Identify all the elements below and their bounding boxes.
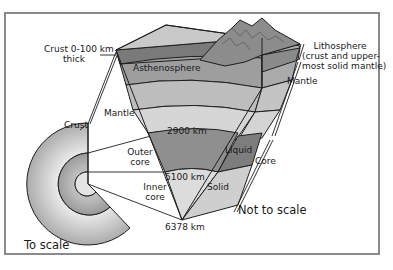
solid-label: Solid [207,182,229,192]
mantle-right-label: Mantle [287,76,318,86]
core-label: Core [255,156,276,166]
liquid-label: Liquid [225,145,252,155]
inner-core-label: Inner core [138,182,172,202]
crust-thickness-label: Crust 0-100 km thick [44,44,104,64]
depth-5100-label: 5100 km [165,172,205,182]
asthenosphere-label: Asthenosphere [133,63,201,73]
not-to-scale-label: Not to scale [238,204,307,217]
crust-label: Crust [64,120,88,130]
outer-core-label: Outer core [123,147,157,167]
to-scale-label: To scale [24,239,69,252]
to-scale-inner-core [75,172,96,196]
mantle-left-label: Mantle [104,108,135,118]
to-scale-cross-section [27,123,130,245]
depth-6378-label: 6378 km [165,222,205,232]
lithosphere-label: Lithosphere (crust and upper- most solid… [302,41,378,71]
depth-2900-label: 2900 km [167,126,207,136]
